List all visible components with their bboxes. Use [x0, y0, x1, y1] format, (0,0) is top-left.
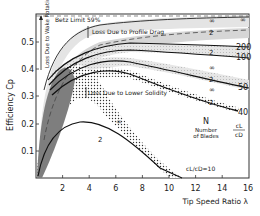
y-tick-0.1: 0.1: [21, 147, 34, 156]
x-tick-16: 16: [243, 184, 253, 193]
legend-of-blades: of Blades: [193, 133, 219, 139]
label-40: 40: [238, 108, 248, 117]
legend-cl: cL: [236, 122, 243, 129]
n-label-inf-a: ∞: [209, 17, 215, 25]
label-200: 200: [236, 43, 251, 52]
betz-limit-label: Betz Limit 59%: [55, 16, 101, 23]
n-label-inf-b: ∞: [209, 64, 215, 72]
y-tick-0.2: 0.2: [21, 120, 34, 129]
n-label-2-d: 2: [209, 99, 213, 107]
legend-n: N: [203, 117, 209, 126]
x-tick-8: 8: [140, 184, 145, 193]
legend-cd: cD: [235, 131, 243, 138]
x-tick-14: 14: [217, 184, 227, 193]
y-axis-label: Efficiency Cp: [6, 79, 15, 131]
label-inf-top: ∞: [240, 16, 246, 24]
x-tick-6: 6: [113, 184, 118, 193]
n-label-2-e: 2: [98, 136, 102, 144]
n-label-2-b: 2: [209, 49, 213, 57]
efficiency-chart: 2 4 6 8 10 12 14 16 0.1 0.2 0.3 0.4 0.5 …: [0, 0, 260, 216]
y-tick-0.5: 0.5: [21, 38, 34, 47]
profile-drag-label: Loss Due to Profile Drag: [92, 28, 164, 36]
x-tick-12: 12: [191, 184, 201, 193]
x-tick-4: 4: [87, 184, 92, 193]
x-tick-10: 10: [164, 184, 174, 193]
wake-rotation-label: Loss Due to Wake Rotation: [44, 0, 50, 68]
x-tick-2: 2: [60, 184, 65, 193]
n-label-2-c: 2: [209, 76, 213, 84]
n-label-2-a: 2: [209, 29, 213, 37]
x-axis-label: Tip Speed Ratio λ: [181, 197, 248, 206]
label-100: 100: [236, 53, 251, 62]
n-label-inf-c: ∞: [209, 86, 215, 94]
y-tick-0.3: 0.3: [21, 92, 34, 101]
n-label-inf-d: ∞: [116, 118, 122, 126]
ratio-10-label: cL/cD=10: [186, 165, 215, 172]
label-50: 50: [238, 83, 248, 92]
y-tick-0.4: 0.4: [21, 65, 34, 74]
lower-solidity-label: Loss Due to Lower Solidity: [88, 89, 168, 97]
